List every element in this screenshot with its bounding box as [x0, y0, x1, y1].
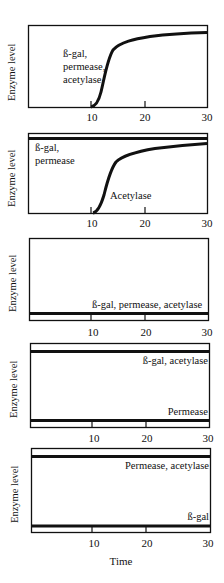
x-tick-20: 20	[142, 537, 153, 549]
annotation-permease-acetylase: Permease, acetylase	[125, 460, 209, 472]
x-tick-10: 10	[89, 537, 100, 549]
x-tick-30: 30	[203, 537, 214, 549]
y-axis-label: Enzyme level	[9, 466, 20, 523]
annotation-bgal: ß-gal	[187, 511, 209, 523]
panel-5-plot	[0, 0, 224, 583]
x-axis-label: Time	[110, 555, 133, 567]
panel-5-bgal-absent: Enzyme level Permease, acetylase ß-gal 1…	[0, 0, 224, 583]
